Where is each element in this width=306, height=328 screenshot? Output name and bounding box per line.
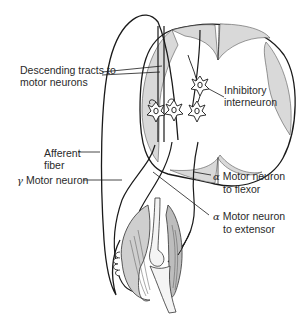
label-inhibitory-interneuron: Inhibitory interneuron <box>224 84 277 108</box>
label-gamma-text: Motor neuron <box>26 174 88 186</box>
label-alpha-extensor-line2: to extensor <box>213 223 285 235</box>
label-inhibitory-line2: interneuron <box>224 96 277 108</box>
label-descending-tracts: Descending tracts to motor neurons <box>20 64 116 88</box>
label-afferent-line1: Afferent <box>44 147 81 159</box>
gamma-symbol: γ <box>17 175 23 186</box>
label-alpha-extensor-line1: Motor neuron <box>223 210 285 222</box>
label-alpha-flexor-line1: Motor neuron <box>223 170 285 182</box>
alpha-symbol-flexor: α <box>213 171 220 182</box>
label-gamma-motor-neuron: γ Motor neuron <box>17 174 88 187</box>
leg-anatomy <box>114 198 191 313</box>
label-afferent-fiber: Afferent fiber <box>44 147 81 171</box>
label-descending-tracts-line1: Descending tracts to <box>20 64 116 76</box>
label-afferent-line2: fiber <box>44 159 81 171</box>
label-alpha-flexor-line2: to flexor <box>213 183 285 195</box>
label-descending-tracts-line2: motor neurons <box>20 76 116 88</box>
alpha-symbol-extensor: α <box>213 211 220 222</box>
label-alpha-motor-flexor: α Motor neuron to flexor <box>213 170 285 195</box>
spinal-reflex-diagram: Descending tracts to motor neurons Inhib… <box>0 0 306 328</box>
label-inhibitory-line1: Inhibitory <box>224 84 277 96</box>
label-alpha-motor-extensor: α Motor neuron to extensor <box>213 210 285 235</box>
